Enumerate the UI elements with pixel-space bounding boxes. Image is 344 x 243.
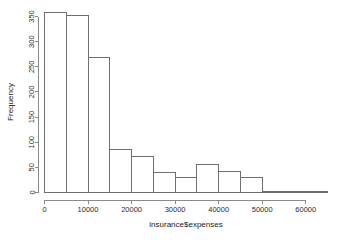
y-tick-label: 150	[28, 111, 37, 124]
histogram-bar	[240, 177, 262, 192]
histogram-screenshot: 0100002000030000400005000060000 05010015…	[0, 0, 344, 243]
y-tick-label: 250	[28, 61, 37, 74]
x-tick-label: 10000	[78, 205, 99, 214]
x-tick-label: 30000	[165, 205, 186, 214]
bars-group	[45, 13, 328, 193]
y-tick-label: 100	[28, 136, 37, 149]
y-tick-label: 50	[28, 163, 37, 171]
x-axis	[45, 200, 306, 204]
histogram-bar	[197, 165, 219, 193]
x-tick-label: 0	[42, 205, 46, 214]
histogram-bar	[110, 150, 132, 193]
plot-area: 0100002000030000400005000060000 05010015…	[0, 0, 344, 243]
x-tick-label: 60000	[295, 205, 316, 214]
histogram-bar	[175, 178, 197, 193]
y-tick-label: 300	[28, 35, 37, 48]
y-axis-title: Frequency	[6, 83, 15, 121]
y-tick-label: 0	[28, 190, 37, 194]
histogram-bar	[219, 172, 241, 193]
y-tick-labels: 050100150200250300350	[28, 10, 37, 194]
histogram-bar	[66, 16, 88, 193]
x-tick-labels: 0100002000030000400005000060000	[42, 205, 316, 214]
histogram-bar	[262, 191, 284, 192]
histogram-bar	[153, 173, 175, 193]
x-axis-title: insurance$expenses	[149, 220, 222, 229]
histogram-bar	[306, 191, 328, 192]
histogram-bar	[88, 58, 110, 193]
y-tick-label: 200	[28, 86, 37, 99]
x-tick-label: 20000	[121, 205, 142, 214]
x-tick-label: 50000	[252, 205, 273, 214]
x-tick-label: 40000	[208, 205, 229, 214]
histogram-bar	[45, 13, 67, 193]
histogram-bar	[132, 156, 154, 192]
y-tick-label: 350	[28, 10, 37, 23]
histogram-plot: 0100002000030000400005000060000 05010015…	[0, 0, 344, 243]
histogram-bar	[284, 192, 306, 193]
